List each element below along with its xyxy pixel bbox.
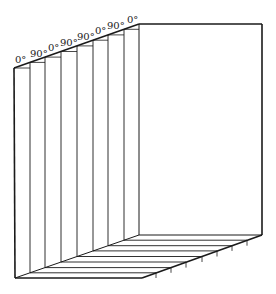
ply-label-1: 0° [15, 54, 26, 65]
ply-label-7: 90° [107, 20, 125, 31]
ply-label-8: 0° [127, 14, 138, 25]
ply-label-5: 90° [77, 31, 95, 42]
ply-label-3: 0° [48, 42, 59, 53]
ply-dividers-side [30, 29, 124, 272]
ply-dividers-floor [30, 240, 247, 273]
back-left-edge [14, 68, 15, 278]
ply-label-2: 90° [30, 48, 48, 59]
laminate-diagram: 0° 90° 0° 90° 90° 0° 90° 0° [0, 0, 276, 294]
ply-label-6: 0° [95, 25, 106, 36]
ply-label-4: 90° [60, 37, 78, 48]
